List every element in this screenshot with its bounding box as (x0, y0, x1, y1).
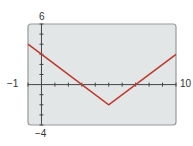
graph-plot (0, 0, 193, 146)
xmin-label: −1 (7, 79, 18, 89)
plot-frame (28, 24, 176, 125)
ymin-label: −4 (35, 129, 46, 139)
ymax-label: 6 (39, 12, 45, 22)
xmax-label: 10 (180, 79, 191, 89)
